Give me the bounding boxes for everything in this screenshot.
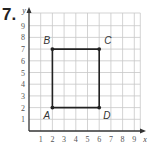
x-tick-label: 4 [74, 135, 78, 144]
x-tick-label: 6 [97, 135, 101, 144]
y-tick-label: 8 [21, 33, 25, 42]
y-axis-label: y [21, 6, 26, 15]
x-tick-label: 5 [86, 135, 90, 144]
y-tick-label: 7 [21, 45, 25, 54]
y-tick-label: 4 [21, 80, 25, 89]
x-tick-label: 8 [121, 135, 125, 144]
x-tick-label: 7 [109, 135, 113, 144]
point-c-label: C [104, 35, 112, 46]
point-d-label: D [103, 110, 110, 121]
x-tick-label: 2 [50, 135, 54, 144]
point-a-label: A [42, 110, 50, 121]
x-axis-label: x [142, 135, 147, 144]
x-tick-label: 3 [62, 135, 66, 144]
x-axis-arrow-icon [140, 129, 146, 134]
x-tick-label: 1 [39, 135, 43, 144]
y-tick-label: 3 [21, 92, 25, 101]
x-tick-label: 9 [132, 135, 136, 144]
y-tick-label: 5 [21, 69, 25, 78]
y-tick-label: 9 [21, 22, 25, 31]
point-c-dot [97, 47, 101, 51]
tick-labels: 123456789123456789xy [21, 6, 147, 144]
y-tick-label: 1 [21, 115, 25, 124]
point-b-label: B [43, 35, 50, 46]
y-tick-label: 6 [21, 57, 25, 66]
point-d-dot [97, 106, 101, 110]
point-a-dot [51, 106, 55, 110]
point-b-dot [51, 47, 55, 51]
y-tick-label: 2 [21, 104, 25, 113]
y-axis-arrow-icon [27, 7, 32, 13]
coordinate-grid: 123456789123456789xy ABCD [0, 0, 152, 145]
